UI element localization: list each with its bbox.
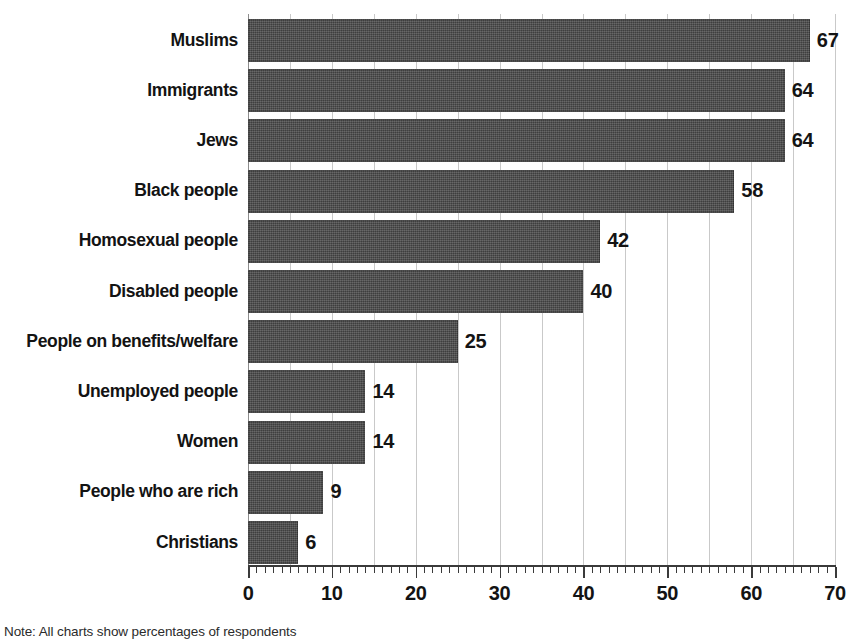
x-tick-label-40: 40 <box>573 582 594 605</box>
minor-tick <box>592 567 593 573</box>
minor-tick <box>625 567 626 573</box>
bar-value-label: 42 <box>607 229 629 252</box>
minor-tick <box>709 567 710 573</box>
minor-tick <box>684 567 685 573</box>
bar-jews <box>248 119 785 162</box>
minor-tick <box>273 567 274 573</box>
minor-tick <box>424 567 425 573</box>
bar-muslims <box>248 19 810 62</box>
minor-tick <box>466 567 467 573</box>
x-tick-label-0: 0 <box>243 582 254 605</box>
minor-tick <box>617 567 618 573</box>
minor-tick <box>265 567 266 573</box>
category-label-homosexual-people: Homosexual people <box>79 230 238 251</box>
minor-tick <box>550 567 551 573</box>
minor-tick <box>407 567 408 573</box>
minor-tick <box>365 567 366 573</box>
minor-tick <box>323 567 324 573</box>
bar-value-label: 67 <box>817 29 839 52</box>
bar-value-label: 6 <box>305 531 316 554</box>
minor-tick <box>542 567 543 573</box>
minor-tick <box>382 567 383 573</box>
minor-tick <box>315 567 316 573</box>
minor-tick <box>474 567 475 573</box>
bar-people-who-are-rich <box>248 471 323 514</box>
category-label-disabled-people: Disabled people <box>109 280 238 301</box>
minor-tick <box>357 567 358 573</box>
bar-value-label: 40 <box>590 280 612 303</box>
gridline-70 <box>835 14 836 565</box>
x-tick-label-50: 50 <box>657 582 678 605</box>
minor-tick <box>634 567 635 573</box>
major-tick <box>835 567 837 578</box>
x-tick-label-10: 10 <box>321 582 342 605</box>
major-tick <box>248 567 250 578</box>
bar-value-label: 58 <box>741 179 763 202</box>
bar-row: 25 <box>248 320 835 363</box>
bar-immigrants <box>248 69 785 112</box>
minor-tick <box>726 567 727 573</box>
major-tick <box>500 567 502 578</box>
minor-tick <box>399 567 400 573</box>
minor-tick <box>692 567 693 573</box>
bar-black-people <box>248 170 734 213</box>
bar-chart-figure: MuslimsImmigrantsJewsBlack peopleHomosex… <box>0 0 867 641</box>
minor-tick <box>533 567 534 573</box>
minor-tick <box>508 567 509 573</box>
minor-tick <box>651 567 652 573</box>
bar-row: 6 <box>248 521 835 564</box>
bar-homosexual-people <box>248 220 600 263</box>
minor-tick <box>718 567 719 573</box>
minor-tick <box>575 567 576 573</box>
minor-tick <box>793 567 794 573</box>
minor-tick <box>609 567 610 573</box>
bar-row: 64 <box>248 69 835 112</box>
minor-tick <box>449 567 450 573</box>
category-label-people-on-benefits-welfare: People on benefits/welfare <box>26 330 238 351</box>
minor-tick <box>659 567 660 573</box>
x-tick-label-30: 30 <box>489 582 510 605</box>
minor-tick <box>256 567 257 573</box>
minor-tick <box>776 567 777 573</box>
minor-tick <box>785 567 786 573</box>
category-label-jews: Jews <box>197 130 238 151</box>
minor-tick <box>516 567 517 573</box>
figure-caption: Note: All charts show percentages of res… <box>4 624 604 641</box>
category-axis-labels: MuslimsImmigrantsJewsBlack peopleHomosex… <box>0 14 238 565</box>
x-tick-label-20: 20 <box>405 582 426 605</box>
category-label-christians: Christians <box>156 531 238 552</box>
bar-row: 42 <box>248 220 835 263</box>
x-tick-label-60: 60 <box>740 582 761 605</box>
major-tick <box>583 567 585 578</box>
minor-tick <box>768 567 769 573</box>
figure-caption-text: Note: All charts show percentages of res… <box>4 624 604 639</box>
minor-tick <box>734 567 735 573</box>
minor-tick <box>642 567 643 573</box>
minor-tick <box>760 567 761 573</box>
bar-value-label: 9 <box>330 480 341 503</box>
bar-disabled-people <box>248 270 583 313</box>
bar-women <box>248 421 365 464</box>
minor-tick <box>391 567 392 573</box>
bar-row: 58 <box>248 170 835 213</box>
minor-tick <box>432 567 433 573</box>
minor-tick <box>374 567 375 573</box>
minor-tick <box>349 567 350 573</box>
bar-people-on-benefits-welfare <box>248 320 458 363</box>
bar-row: 14 <box>248 370 835 413</box>
minor-tick <box>743 567 744 573</box>
bar-value-label: 64 <box>792 79 814 102</box>
minor-tick <box>676 567 677 573</box>
category-label-women: Women <box>177 431 238 452</box>
major-tick <box>416 567 418 578</box>
minor-tick <box>558 567 559 573</box>
bar-value-label: 64 <box>792 129 814 152</box>
minor-tick <box>567 567 568 573</box>
minor-tick <box>290 567 291 573</box>
bar-row: 64 <box>248 119 835 162</box>
major-tick <box>332 567 334 578</box>
bar-christians <box>248 521 298 564</box>
minor-tick <box>483 567 484 573</box>
category-label-unemployed-people: Unemployed people <box>78 381 238 402</box>
bar-value-label: 14 <box>372 430 394 453</box>
